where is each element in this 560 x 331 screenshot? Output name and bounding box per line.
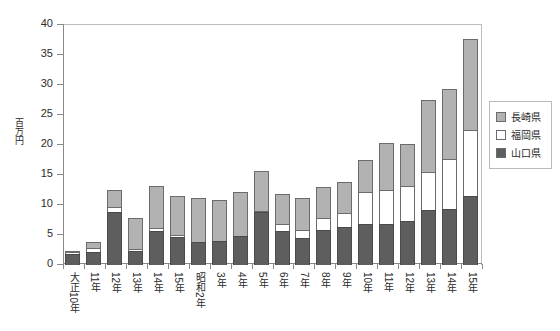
bar-segment-fukuoka[interactable]	[463, 130, 478, 197]
bar-segment-yamaguchi[interactable]	[107, 212, 122, 265]
x-axis-tick-label: 13年	[131, 272, 142, 293]
bar-segment-yamaguchi[interactable]	[212, 241, 227, 265]
bar-segment-yamaguchi[interactable]	[295, 238, 310, 265]
bar-segment-fukuoka[interactable]	[400, 186, 415, 222]
y-axis-tick-label: 25	[5, 108, 53, 119]
bar-segment-yamaguchi[interactable]	[421, 210, 436, 265]
bar-segment-yamaguchi[interactable]	[149, 231, 164, 265]
stacked-bar[interactable]	[421, 100, 436, 264]
x-axis-tick-label: 5年	[257, 272, 268, 288]
bar-segment-nagasaki[interactable]	[254, 171, 269, 212]
bar-segment-yamaguchi[interactable]	[463, 196, 478, 265]
stacked-bar[interactable]	[128, 218, 143, 264]
stacked-bar[interactable]	[463, 39, 478, 264]
legend-label: 山口県	[511, 148, 541, 159]
bar-segment-yamaguchi[interactable]	[128, 251, 143, 265]
bar-segment-nagasaki[interactable]	[442, 89, 457, 159]
bar-segment-nagasaki[interactable]	[107, 190, 122, 209]
bar-slot	[210, 24, 231, 264]
y-axis-label-wrap: 25	[0, 108, 53, 119]
bar-segment-nagasaki[interactable]	[463, 39, 478, 131]
stacked-bar[interactable]	[191, 198, 206, 264]
bar-slot	[189, 24, 210, 264]
bar-slot	[314, 24, 335, 264]
bar-segment-yamaguchi[interactable]	[442, 209, 457, 265]
bar-segment-nagasaki[interactable]	[233, 192, 248, 236]
x-axis-tick-label: 3年	[215, 272, 226, 288]
x-axis-tick-label: 大正10年	[68, 272, 79, 313]
bar-segment-yamaguchi[interactable]	[233, 236, 248, 265]
legend-item-nagasaki[interactable]: 長崎県	[496, 108, 546, 126]
bar-segment-nagasaki[interactable]	[379, 143, 394, 191]
bar-segment-fukuoka[interactable]	[337, 213, 352, 229]
bar-segment-nagasaki[interactable]	[295, 198, 310, 231]
stacked-bar[interactable]	[170, 196, 185, 264]
x-axis-tick	[314, 264, 315, 269]
bar-segment-nagasaki[interactable]	[337, 182, 352, 214]
x-axis-tick	[377, 264, 378, 269]
x-axis-tick	[84, 264, 85, 269]
stacked-bar[interactable]	[86, 242, 101, 264]
stacked-bar[interactable]	[400, 144, 415, 264]
stacked-bar[interactable]	[212, 200, 227, 264]
bar-segment-yamaguchi[interactable]	[400, 221, 415, 265]
bar-segment-fukuoka[interactable]	[421, 172, 436, 211]
x-axis-tick	[189, 264, 190, 269]
bar-segment-nagasaki[interactable]	[316, 187, 331, 219]
bar-segment-nagasaki[interactable]	[128, 218, 143, 250]
bar-segment-fukuoka[interactable]	[358, 192, 373, 225]
stacked-bar[interactable]	[337, 182, 352, 264]
bar-segment-nagasaki[interactable]	[275, 194, 290, 225]
bar-slot	[252, 24, 273, 264]
bar-segment-yamaguchi[interactable]	[316, 230, 331, 265]
stacked-bar[interactable]	[295, 198, 310, 264]
legend-item-yamaguchi[interactable]: 山口県	[496, 144, 546, 162]
stacked-bar[interactable]	[149, 186, 164, 264]
stacked-bar[interactable]	[316, 187, 331, 264]
stacked-bar[interactable]	[379, 143, 394, 264]
bar-slot	[126, 24, 147, 264]
bar-segment-yamaguchi[interactable]	[86, 252, 101, 265]
stacked-bar[interactable]	[254, 171, 269, 264]
y-axis-tick-label: 35	[5, 48, 53, 59]
x-axis-tick	[210, 264, 211, 269]
bar-segment-yamaguchi[interactable]	[65, 254, 80, 265]
y-axis-tick-label: 10	[5, 198, 53, 209]
bar-slot	[293, 24, 314, 264]
legend-swatch-icon	[496, 148, 506, 158]
y-axis-label-wrap: 15	[0, 168, 53, 179]
bar-segment-yamaguchi[interactable]	[379, 224, 394, 265]
bar-segment-nagasaki[interactable]	[191, 198, 206, 243]
legend-item-fukuoka[interactable]: 福岡県	[496, 126, 546, 144]
x-axis-tick	[231, 264, 232, 269]
bar-slot	[356, 24, 377, 264]
bar-segment-nagasaki[interactable]	[149, 186, 164, 229]
bar-segment-nagasaki[interactable]	[212, 200, 227, 242]
stacked-bar[interactable]	[107, 190, 122, 264]
bar-segment-yamaguchi[interactable]	[170, 237, 185, 265]
bar-segment-nagasaki[interactable]	[170, 196, 185, 236]
stacked-bar[interactable]	[275, 194, 290, 264]
bar-slot	[377, 24, 398, 264]
bar-segment-yamaguchi[interactable]	[254, 212, 269, 265]
bar-segment-fukuoka[interactable]	[442, 159, 457, 211]
stacked-bar[interactable]	[65, 251, 80, 264]
y-axis-label-wrap: 30	[0, 78, 53, 89]
x-axis-tick-label: 15年	[467, 272, 478, 293]
bar-segment-yamaguchi[interactable]	[275, 231, 290, 265]
stacked-bar[interactable]	[233, 192, 248, 264]
stacked-bar[interactable]	[442, 89, 457, 264]
bar-segment-yamaguchi[interactable]	[358, 224, 373, 265]
stacked-bar[interactable]	[358, 160, 373, 264]
bar-segment-yamaguchi[interactable]	[337, 227, 352, 265]
bar-segment-yamaguchi[interactable]	[191, 242, 206, 265]
x-axis-tick-label: 9年	[341, 272, 352, 288]
bar-segment-fukuoka[interactable]	[379, 190, 394, 224]
bar-segment-nagasaki[interactable]	[358, 160, 373, 192]
bar-segment-nagasaki[interactable]	[421, 100, 436, 173]
bar-slot	[63, 24, 84, 264]
bar-slot	[398, 24, 419, 264]
y-axis-label-wrap: 0	[0, 258, 53, 269]
x-axis-tick-label: 12年	[110, 272, 121, 293]
bar-segment-nagasaki[interactable]	[400, 144, 415, 187]
